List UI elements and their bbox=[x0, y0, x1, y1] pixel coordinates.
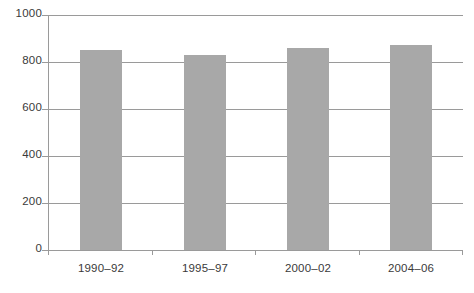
x-axis-label-1995-97: 1995–97 bbox=[182, 262, 228, 274]
x-axis-label-2004-06: 2004–06 bbox=[388, 262, 434, 274]
y-tick-label-0: 0 bbox=[35, 242, 42, 254]
x-tick-mark-3 bbox=[359, 250, 360, 255]
x-tick-mark-0 bbox=[48, 250, 49, 255]
bar-2000-02 bbox=[287, 48, 329, 250]
bar-1995-97 bbox=[184, 55, 226, 250]
x-tick-mark-2 bbox=[255, 250, 256, 255]
bar-2004-06 bbox=[390, 45, 432, 250]
gridline-1000 bbox=[48, 15, 463, 16]
y-tick-label-600: 600 bbox=[22, 101, 42, 113]
y-tick-label-200: 200 bbox=[22, 195, 42, 207]
x-axis-label-1990-92: 1990–92 bbox=[78, 262, 124, 274]
y-tick-mark-1000 bbox=[42, 15, 48, 16]
x-tick-mark-4 bbox=[462, 250, 463, 255]
y-tick-label-1000: 1000 bbox=[16, 7, 42, 19]
bar-chart: 1000 800 600 400 200 0 bbox=[0, 0, 474, 293]
y-tick-mark-800 bbox=[42, 62, 48, 63]
bar-1990-92 bbox=[80, 50, 122, 250]
y-tick-mark-400 bbox=[42, 156, 48, 157]
y-tick-label-400: 400 bbox=[22, 148, 42, 160]
x-axis-label-2000-02: 2000–02 bbox=[285, 262, 331, 274]
y-tick-label-800: 800 bbox=[22, 54, 42, 66]
y-tick-mark-600 bbox=[42, 109, 48, 110]
x-tick-mark-1 bbox=[152, 250, 153, 255]
y-tick-mark-200 bbox=[42, 203, 48, 204]
plot-area: 1000 800 600 400 200 0 bbox=[48, 15, 463, 250]
